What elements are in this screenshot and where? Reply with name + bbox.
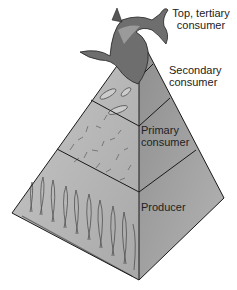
label-secondary-consumer: Secondary consumer — [169, 64, 222, 88]
label-top-consumer: Top, tertiary consumer — [168, 7, 234, 31]
label-secondary-line2: consumer — [169, 76, 222, 88]
label-top-line1: Top, tertiary — [168, 7, 234, 19]
label-primary-line1: Primary — [141, 124, 189, 136]
pyramid-diagram — [0, 0, 237, 290]
label-primary-consumer: Primary consumer — [141, 124, 189, 148]
label-primary-line2: consumer — [141, 136, 189, 148]
label-secondary-line1: Secondary — [169, 64, 222, 76]
label-top-line2: consumer — [168, 19, 234, 31]
label-producer-line1: Producer — [141, 201, 186, 213]
label-producer: Producer — [141, 201, 186, 213]
